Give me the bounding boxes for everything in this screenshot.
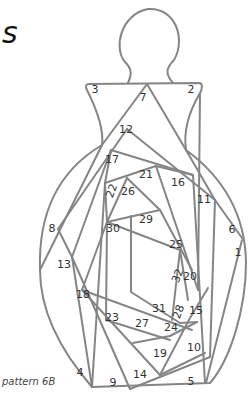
pattern-caption: pattern 6B <box>2 376 55 387</box>
pattern-lines <box>40 84 242 389</box>
section-label-11: 11 <box>197 193 211 206</box>
section-label-4: 4 <box>77 366 84 379</box>
section-label-13: 13 <box>57 258 71 271</box>
section-label-16: 16 <box>171 176 185 189</box>
section-label-19: 19 <box>153 347 167 360</box>
section-label-15: 15 <box>189 304 203 317</box>
section-label-5: 5 <box>188 375 195 388</box>
section-label-2: 2 <box>188 83 195 96</box>
section-label-23: 23 <box>105 311 119 324</box>
iris-folding-pattern-diagram: 1234567891011121314151617181920212223242… <box>0 0 251 394</box>
section-label-29: 29 <box>139 213 153 226</box>
section-label-10: 10 <box>187 341 201 354</box>
section-label-7: 7 <box>140 91 147 104</box>
section-label-31: 31 <box>152 302 166 315</box>
section-label-26: 26 <box>121 185 135 198</box>
section-label-12: 12 <box>119 123 133 136</box>
section-label-6: 6 <box>229 223 236 236</box>
section-label-9: 9 <box>110 376 117 389</box>
section-label-8: 8 <box>49 222 56 235</box>
section-label-14: 14 <box>133 368 147 381</box>
section-label-3: 3 <box>92 83 99 96</box>
section-label-25: 25 <box>169 238 183 251</box>
section-label-24: 24 <box>164 321 178 334</box>
section-label-30: 30 <box>106 222 120 235</box>
section-label-18: 18 <box>76 288 90 301</box>
section-label-17: 17 <box>105 153 119 166</box>
section-label-27: 27 <box>135 317 149 330</box>
section-label-1: 1 <box>235 246 242 259</box>
section-label-21: 21 <box>139 168 153 181</box>
bottle-outline <box>40 9 246 387</box>
